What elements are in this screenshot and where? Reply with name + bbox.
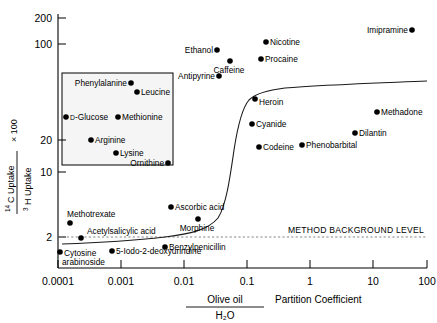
y-tick-label-20: 20: [40, 134, 52, 146]
y-axis-title-denominator: H Uptake: [23, 167, 33, 205]
point-label-cytosine-arabinoside-line2: arabinoside: [62, 257, 105, 267]
point-label-lysine: Lysine: [120, 148, 144, 158]
point-label-arginine: Arginine: [95, 135, 126, 145]
point-label-methionine: Methionine: [122, 112, 163, 122]
point-label-5-iodo-2-deoxyurindine: 5-Iodo-2-deoxyurindine: [116, 246, 202, 256]
y-tick-label-10: 10: [40, 166, 52, 178]
point-ethanol: [214, 47, 220, 53]
x-tick-label-4: 1: [307, 275, 313, 287]
point-arginine: [88, 137, 94, 143]
x-tick-label-5: 10: [367, 275, 379, 287]
point-label-imipramine: Imipramine: [367, 25, 408, 35]
point-label-ascorbic-acid: Ascorbic acid: [175, 202, 225, 212]
point-label-phenobarbital: Phenobarbital: [306, 140, 357, 150]
point-cytosine-arabinoside: [57, 249, 63, 255]
method-background-level-label: METHOD BACKGROUND LEVEL: [288, 225, 424, 235]
x-axis-title-suffix: Partition Coefficient: [275, 294, 362, 305]
point-label-codeine: Codeine: [263, 142, 294, 152]
point-label-acetylsalicylic-acid: Acetylsalicylic acid: [87, 226, 156, 236]
point-label-procaine: Procaine: [265, 54, 298, 64]
point-caffeine: [227, 58, 233, 64]
point-label-antipyrine: Antipyrine: [178, 71, 215, 81]
point-label-methadone: Methadone: [381, 107, 423, 117]
point-antipyrine: [216, 73, 222, 79]
point-ascorbic-acid: [168, 204, 174, 210]
point-label-ethanol: Ethanol: [185, 45, 213, 55]
x-tick-label-1: 0.001: [108, 275, 134, 287]
point-label-d-glucose: -Glucose: [75, 112, 109, 122]
point-procaine: [258, 56, 264, 62]
x-tick-label-3: 0.1: [240, 275, 255, 287]
point-methadone: [374, 109, 380, 115]
y-tick-label-200: 200: [34, 12, 52, 24]
point-dilantin: [352, 130, 358, 136]
y-axis-title-numerator: C Uptake: [6, 165, 16, 203]
scatter-plot: 200 100 20 10 2 0.0001 0.001 0.01 0.1 1 …: [0, 0, 437, 323]
point-heroin: [252, 96, 258, 102]
point-d-glucose: [63, 114, 69, 120]
point-label-methotrexate: Methotrexate: [67, 209, 116, 219]
x-tick-label-2: 0.01: [174, 275, 195, 287]
x-axis-title: Olive oil H₂O Partition Coefficient: [186, 294, 362, 321]
y-axis-title-suffix: × 100: [9, 119, 19, 142]
y-tick-label-2: 2: [46, 231, 52, 243]
point-leucine: [134, 89, 140, 95]
point-acetylsalicylic-acid: [78, 235, 84, 241]
point-ornithine: [165, 160, 171, 166]
x-axis-title-denominator: H₂O: [216, 310, 235, 321]
y-axis-title: 14 C Uptake 3 H Uptake × 100: [4, 119, 33, 214]
point-label-morphine: Morphine: [180, 223, 215, 233]
point-cyanide: [249, 121, 255, 127]
x-tick-label-0: 0.0001: [42, 275, 74, 287]
point-label-dilantin: Dilantin: [359, 128, 387, 138]
point-label-ornithine: Ornithine: [130, 158, 164, 168]
point-label-leucine: Leucine: [141, 87, 170, 97]
point-lysine: [113, 150, 119, 156]
chart-root: 200 100 20 10 2 0.0001 0.001 0.01 0.1 1 …: [0, 0, 437, 323]
point-label-phenylalanine: Phenylalanine: [75, 78, 128, 88]
y-axis-title-sup-3: 3: [22, 207, 29, 211]
point-imipramine: [409, 27, 415, 33]
point-5-iodo-2-deoxyurindine: [109, 248, 115, 254]
point-phenylalanine: [128, 80, 134, 86]
point-nicotine: [263, 39, 269, 45]
x-tick-label-6: 100: [418, 275, 436, 287]
y-axis-title-sup-14: 14: [4, 204, 11, 212]
point-methotrexate: [67, 220, 73, 226]
point-phenobarbital: [299, 142, 305, 148]
x-axis-ticks: [58, 260, 427, 268]
point-label-cyanide: Cyanide: [256, 119, 287, 129]
point-morphine: [195, 216, 201, 222]
y-tick-label-100: 100: [34, 38, 52, 50]
point-methionine: [115, 114, 121, 120]
point-label-nicotine: Nicotine: [270, 37, 300, 47]
point-codeine: [256, 144, 262, 150]
x-axis-title-numerator: Olive oil: [207, 294, 243, 305]
point-label-heroin: Heroin: [259, 97, 284, 107]
